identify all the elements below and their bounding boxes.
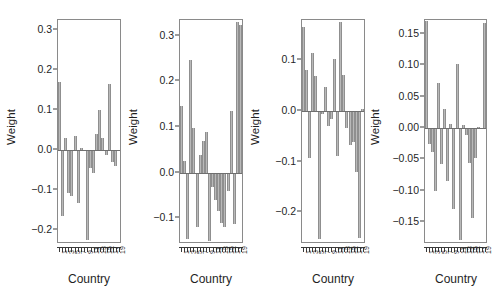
bar bbox=[459, 128, 462, 240]
bar bbox=[305, 70, 308, 111]
bar bbox=[92, 150, 95, 173]
panel-1-plot-frame bbox=[57, 19, 121, 243]
bar bbox=[227, 173, 230, 191]
panel-1-y-tick-label: 0.3 bbox=[37, 23, 52, 35]
panel-2-y-tick-label: −0.1 bbox=[153, 211, 174, 223]
bar bbox=[77, 150, 80, 203]
panel-2-plot-frame bbox=[179, 19, 243, 243]
panel-1: Weight 0.30.20.10.0−0.1−0.2 135791113151… bbox=[0, 0, 122, 296]
panel-1-zero-line bbox=[58, 150, 120, 151]
bar bbox=[58, 82, 61, 150]
panel-2-y-tick-labels: 0.30.20.10.0−0.1 bbox=[142, 16, 179, 238]
bar bbox=[336, 111, 339, 157]
x-tick-label: 19 bbox=[485, 246, 492, 254]
panel-4-y-tick-label: 0.10 bbox=[399, 58, 419, 70]
bar bbox=[70, 150, 73, 196]
bar bbox=[108, 84, 111, 150]
panel-1-x-axis-title: Country bbox=[47, 272, 131, 286]
x-tick-mark bbox=[181, 247, 182, 252]
panel-2-y-tick-label: 0.1 bbox=[159, 120, 174, 132]
panel-4-y-tick-label: −0.15 bbox=[392, 215, 419, 227]
panel-4-y-tick-label: 0.00 bbox=[399, 121, 419, 133]
panel-1-y-tick-label: 0.1 bbox=[37, 103, 52, 115]
panel-3-y-tick-label: 0.0 bbox=[281, 104, 296, 116]
panel-2-y-tick-label: 0.2 bbox=[159, 74, 174, 86]
bar bbox=[74, 136, 77, 150]
bar bbox=[434, 128, 437, 191]
panel-3-zero-line bbox=[302, 111, 364, 112]
panel-4-y-tick-label: −0.05 bbox=[392, 152, 419, 164]
bar bbox=[233, 173, 236, 224]
panel-2-bars bbox=[180, 20, 242, 242]
panel-2-zero-line bbox=[180, 173, 242, 174]
bar bbox=[443, 109, 446, 128]
bar bbox=[114, 150, 117, 166]
x-tick-mark bbox=[303, 247, 304, 252]
panel-1-y-tick-label: 0.2 bbox=[37, 63, 52, 75]
panel-4-bars bbox=[425, 20, 486, 242]
bar bbox=[358, 111, 361, 238]
panel-4-y-tick-label: 0.15 bbox=[399, 27, 419, 39]
bar bbox=[186, 173, 189, 239]
bar bbox=[330, 111, 333, 120]
bar bbox=[101, 138, 104, 150]
panel-3: Weight 0.10.0−0.1−0.2 135791113151719 Co… bbox=[244, 0, 366, 296]
panel-1-bars bbox=[58, 20, 120, 242]
panel-3-bars bbox=[302, 20, 364, 242]
panel-4-plot-frame bbox=[424, 19, 487, 243]
bar bbox=[483, 23, 486, 128]
bar bbox=[437, 83, 440, 128]
panel-3-y-axis-title: Weight bbox=[246, 16, 264, 238]
panel-4-x-axis-title: Country bbox=[414, 272, 496, 286]
bar bbox=[239, 25, 242, 173]
panel-4-y-tick-label: 0.05 bbox=[399, 90, 419, 102]
panel-3-plot-frame bbox=[301, 19, 365, 243]
panel-3-x-axis-title: Country bbox=[291, 272, 375, 286]
panel-2-y-axis-title: Weight bbox=[124, 16, 142, 238]
bar bbox=[452, 128, 455, 210]
panel-3-y-tick-labels: 0.10.0−0.1−0.2 bbox=[264, 16, 301, 238]
bar bbox=[342, 75, 345, 111]
bar bbox=[474, 128, 477, 158]
bar bbox=[64, 138, 67, 150]
panel-1-y-tick-label: −0.2 bbox=[31, 223, 52, 235]
panel-2-x-axis-title: Country bbox=[169, 272, 253, 286]
bar bbox=[196, 173, 199, 228]
panel-2-y-tick-label: 0.0 bbox=[159, 166, 174, 178]
panel-4-y-tick-label: −0.10 bbox=[392, 184, 419, 196]
panel-1-y-tick-label: 0.0 bbox=[37, 143, 52, 155]
panel-2: Weight 0.30.20.10.0−0.1 135791113151719 … bbox=[122, 0, 244, 296]
bar bbox=[324, 87, 327, 110]
bar bbox=[456, 64, 459, 128]
panel-4-y-tick-labels: 0.150.100.050.00−0.05−0.10−0.15 bbox=[382, 16, 424, 238]
bar bbox=[333, 59, 336, 111]
bar bbox=[192, 128, 195, 172]
panel-3-y-tick-label: −0.2 bbox=[275, 205, 296, 217]
bar bbox=[318, 111, 321, 240]
panel-1-y-tick-label: −0.1 bbox=[31, 183, 52, 195]
bar bbox=[183, 161, 186, 173]
bar bbox=[61, 150, 64, 216]
x-tick-mark bbox=[426, 247, 427, 252]
bar bbox=[446, 128, 449, 181]
panel-4: Weight 0.150.100.050.00−0.05−0.10−0.15 1… bbox=[366, 0, 488, 296]
bar bbox=[425, 21, 428, 128]
panel-1-y-axis-title: Weight bbox=[2, 16, 20, 238]
bar bbox=[205, 132, 208, 173]
panel-3-y-tick-label: 0.1 bbox=[281, 53, 296, 65]
bar bbox=[314, 76, 317, 111]
bar bbox=[308, 111, 311, 159]
x-tick-mark bbox=[59, 247, 60, 252]
panel-1-y-tick-labels: 0.30.20.10.0−0.1−0.2 bbox=[20, 16, 57, 238]
panel-3-y-tick-label: −0.1 bbox=[275, 155, 296, 167]
bar bbox=[230, 111, 233, 173]
bar bbox=[440, 128, 443, 164]
panel-2-y-tick-label: 0.3 bbox=[159, 29, 174, 41]
panel-4-zero-line bbox=[425, 128, 486, 129]
